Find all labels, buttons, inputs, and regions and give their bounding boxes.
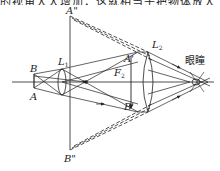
virtual-rays: [70, 16, 152, 150]
label-f2: F2: [113, 67, 125, 79]
label-eye-pupil: 眼瞳: [185, 54, 205, 66]
microscope-ray-diagram: B A L1 L2 A' B' F2 A" B" 眼瞳: [0, 0, 220, 171]
label-a-prime: A': [123, 53, 134, 64]
label-a: A: [29, 91, 37, 102]
label-a-double-prime: A": [65, 5, 78, 16]
focal-point-f1: [84, 80, 88, 84]
label-b: B: [29, 63, 37, 74]
label-b-double-prime: B": [63, 153, 76, 164]
label-l2: L2: [151, 39, 163, 51]
label-l1: L1: [57, 56, 68, 68]
label-b-prime: B': [123, 101, 134, 112]
